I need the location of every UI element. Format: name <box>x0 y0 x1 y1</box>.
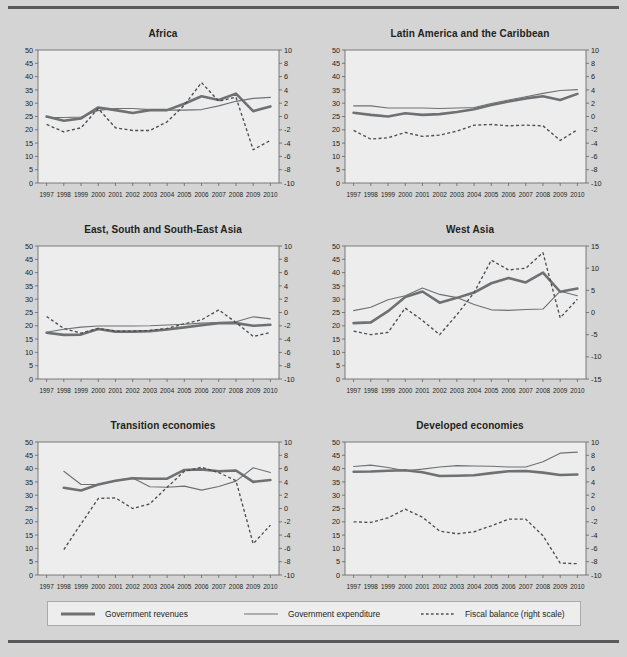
thin-line-swatch <box>243 608 279 620</box>
x-axis-tick-label: 2009 <box>553 191 568 198</box>
y-axis-tick-label: 30 <box>332 295 340 304</box>
x-axis-tick-label: 2003 <box>143 191 158 198</box>
y-axis-tick-label: 35 <box>25 86 33 95</box>
y-axis-tick-label: 30 <box>25 295 33 304</box>
y2-axis-tick-label: -2 <box>591 125 598 134</box>
y-axis-tick-label: 20 <box>25 517 33 526</box>
x-axis-tick-label: 1998 <box>57 583 72 590</box>
plot-area: 05101520253035404550-10-8-6-4-2024681019… <box>8 240 318 412</box>
x-axis-tick-label: 2000 <box>91 191 106 198</box>
y2-axis-tick-label: 0 <box>284 504 288 513</box>
y2-axis-tick-label: 6 <box>284 268 288 277</box>
legend-label: Government revenues <box>105 609 188 619</box>
y-axis-tick-label: 35 <box>25 282 33 291</box>
y2-axis-tick-label: -4 <box>284 335 291 344</box>
x-axis-tick-label: 2005 <box>484 191 499 198</box>
plot-background <box>345 246 586 379</box>
y-axis-tick-label: 15 <box>25 139 33 148</box>
x-axis-tick-label: 2010 <box>570 191 585 198</box>
x-axis-tick-label: 2009 <box>246 191 261 198</box>
panel-title: West Asia <box>315 224 625 235</box>
x-axis-tick-label: 2002 <box>433 387 448 394</box>
y-axis-tick-label: 10 <box>25 544 33 553</box>
y-axis-tick-label: 40 <box>25 268 33 277</box>
y-axis-tick-label: 35 <box>332 478 340 487</box>
y-axis-tick-label: 30 <box>332 491 340 500</box>
plot-background <box>345 442 586 575</box>
y2-axis-tick-label: -6 <box>284 152 291 161</box>
y-axis-tick-label: 5 <box>29 557 33 566</box>
y-axis-tick-label: 35 <box>25 478 33 487</box>
x-axis-tick-label: 1999 <box>381 191 396 198</box>
x-axis-tick-label: 2000 <box>91 387 106 394</box>
x-axis-tick-label: 1998 <box>57 191 72 198</box>
y2-axis-tick-label: -4 <box>591 531 598 540</box>
x-axis-tick-label: 2003 <box>450 191 465 198</box>
x-axis-tick-label: 2002 <box>433 191 448 198</box>
y-axis-tick-label: 45 <box>332 255 340 264</box>
x-axis-tick-label: 2009 <box>246 387 261 394</box>
x-axis-tick-label: 2006 <box>194 583 209 590</box>
legend-label: Fiscal balance (right scale) <box>465 609 565 619</box>
panel-latin-america-and-the-caribbean: Latin America and the Caribbean 05101520… <box>315 22 625 217</box>
x-axis-tick-label: 2010 <box>263 387 278 394</box>
panel-title: Africa <box>8 28 318 39</box>
y-axis-tick-label: 45 <box>25 59 33 68</box>
x-axis-tick-label: 2004 <box>160 583 175 590</box>
y-axis-tick-label: 20 <box>332 321 340 330</box>
y-axis-tick-label: 5 <box>336 361 340 370</box>
x-axis-tick-label: 1998 <box>57 387 72 394</box>
y2-axis-tick-label: 6 <box>591 72 595 81</box>
panel-title: Latin America and the Caribbean <box>315 28 625 39</box>
y-axis-tick-label: 25 <box>25 112 33 121</box>
x-axis-tick-label: 1999 <box>381 387 396 394</box>
plot-background <box>38 246 279 379</box>
y2-axis-tick-label: -10 <box>591 179 602 188</box>
y2-axis-tick-label: 2 <box>591 491 595 500</box>
chart-legend: Government revenuesGovernment expenditur… <box>47 601 581 626</box>
y-axis-tick-label: 30 <box>25 99 33 108</box>
y-axis-tick-label: 15 <box>25 335 33 344</box>
dashed-line-swatch <box>420 608 456 620</box>
x-axis-tick-label: 2006 <box>501 387 516 394</box>
y-axis-tick-label: 25 <box>332 112 340 121</box>
y2-axis-tick-label: 2 <box>284 295 288 304</box>
x-axis-tick-label: 2004 <box>160 191 175 198</box>
y2-axis-tick-label: -8 <box>591 557 598 566</box>
y2-axis-tick-label: 5 <box>591 286 595 295</box>
x-axis-tick-label: 2004 <box>160 387 175 394</box>
y2-axis-tick-label: 10 <box>591 264 599 273</box>
y-axis-tick-label: 5 <box>336 165 340 174</box>
y-axis-tick-label: 0 <box>336 375 340 384</box>
y-axis-tick-label: 0 <box>336 571 340 580</box>
y-axis-tick-label: 20 <box>25 125 33 134</box>
y2-axis-tick-label: 4 <box>591 86 595 95</box>
x-axis-tick-label: 1997 <box>39 583 54 590</box>
y-axis-tick-label: 15 <box>25 531 33 540</box>
y2-axis-tick-label: -4 <box>591 139 598 148</box>
plot-area: 05101520253035404550-15-10-5051015199719… <box>315 240 625 412</box>
x-axis-tick-label: 1997 <box>39 191 54 198</box>
panel-west-asia: West Asia 05101520253035404550-15-10-505… <box>315 218 625 413</box>
x-axis-tick-label: 2001 <box>108 191 123 198</box>
y-axis-tick-label: 45 <box>332 59 340 68</box>
y-axis-tick-label: 40 <box>25 72 33 81</box>
x-axis-tick-label: 2007 <box>212 583 227 590</box>
y2-axis-tick-label: 2 <box>591 99 595 108</box>
y2-axis-tick-label: -6 <box>284 544 291 553</box>
x-axis-tick-label: 2004 <box>467 387 482 394</box>
y2-axis-tick-label: -2 <box>591 517 598 526</box>
legend-item: Government expenditure <box>243 602 380 625</box>
y2-axis-tick-label: -10 <box>591 352 602 361</box>
x-axis-tick-label: 2007 <box>519 583 534 590</box>
x-axis-tick-label: 2003 <box>143 583 158 590</box>
plot-background <box>38 50 279 183</box>
y-axis-tick-label: 10 <box>25 152 33 161</box>
y2-axis-tick-label: 0 <box>284 308 288 317</box>
top-rule <box>8 6 619 9</box>
legend-item: Government revenues <box>60 602 188 625</box>
x-axis-tick-label: 1999 <box>74 191 89 198</box>
x-axis-tick-label: 2000 <box>398 583 413 590</box>
y-axis-tick-label: 5 <box>336 557 340 566</box>
x-axis-tick-label: 2007 <box>212 191 227 198</box>
